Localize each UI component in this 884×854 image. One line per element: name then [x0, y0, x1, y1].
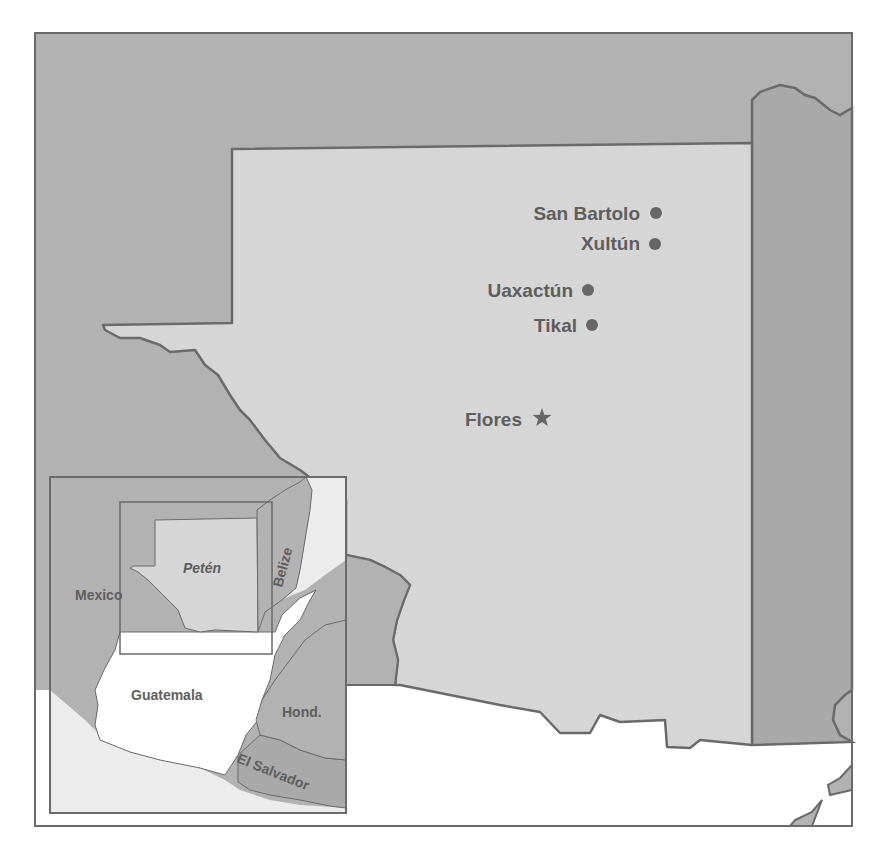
map-canvas: San BartoloXultúnUaxactúnTikalFlores: [0, 0, 884, 854]
belize-region: [752, 85, 852, 745]
circle-marker-icon: [586, 319, 598, 331]
inset-label-honduras: Hond.: [282, 704, 322, 720]
circle-marker-icon: [649, 238, 661, 250]
inset-map: Mexico Petén Belize Guatemala Hond. El S…: [50, 477, 346, 813]
site-label: Xultún: [581, 233, 640, 254]
site-label: San Bartolo: [533, 203, 640, 224]
site-label: Tikal: [534, 315, 577, 336]
map-figure: San BartoloXultúnUaxactúnTikalFlores: [0, 0, 884, 854]
inset-label-mexico: Mexico: [75, 587, 122, 603]
circle-marker-icon: [650, 207, 662, 219]
inset-label-peten: Petén: [183, 560, 221, 576]
circle-marker-icon: [582, 284, 594, 296]
site-label: Flores: [465, 409, 522, 430]
inset-label-guatemala: Guatemala: [131, 687, 203, 703]
site-label: Uaxactún: [487, 280, 573, 301]
